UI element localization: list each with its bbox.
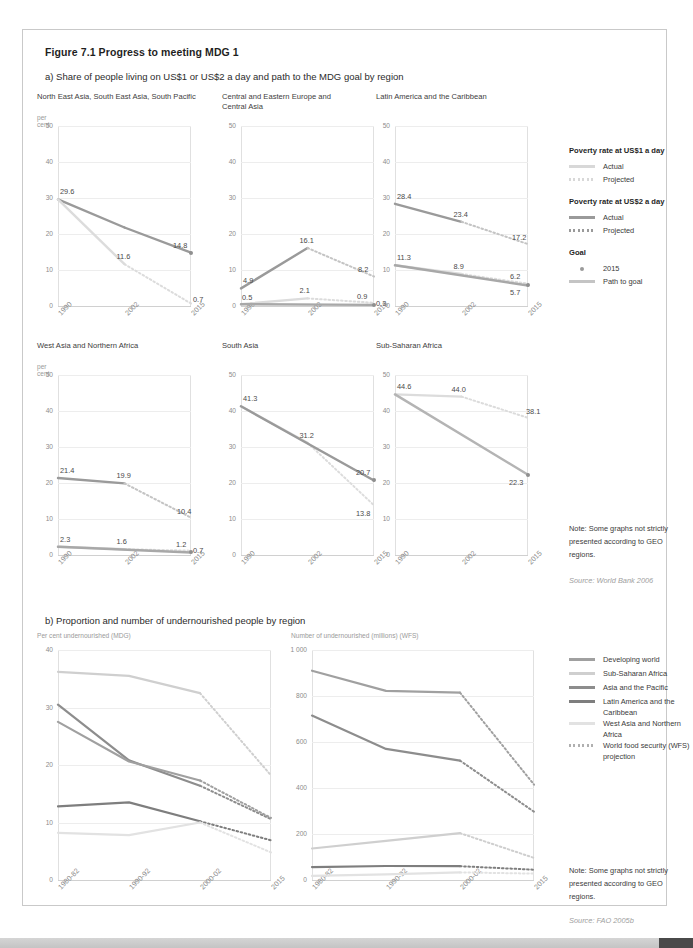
y-axis-tick: 600 — [285, 738, 307, 745]
data-label: 1.2 — [176, 540, 186, 549]
legend-dot-icon — [580, 267, 584, 271]
legend-item[interactable]: 2015 — [569, 262, 687, 275]
series-line — [460, 693, 534, 785]
x-axis-tick: 2015 — [526, 549, 544, 567]
gridline — [395, 555, 528, 556]
y-axis-tick: 200 — [285, 830, 307, 837]
y-axis-tick: 20 — [31, 479, 53, 486]
legend-dotted-line-icon — [569, 178, 595, 181]
data-label: 1.6 — [117, 537, 127, 546]
legend-solid-line-icon — [569, 686, 595, 689]
gridline — [395, 306, 528, 307]
data-label: 16.1 — [300, 236, 314, 245]
series-layer — [312, 650, 534, 880]
series-layer — [241, 126, 374, 306]
legend-item[interactable]: Sub-Saharan Africa — [569, 668, 691, 682]
legend-swatch — [569, 162, 595, 171]
plot-area: 0102030405019902002201521.42.319.91.610.… — [58, 375, 191, 555]
y-axis-tick: 50 — [368, 122, 390, 129]
data-label: 0.5 — [242, 293, 252, 302]
goal-marker-dot — [526, 283, 530, 287]
data-label: 0.7 — [193, 546, 203, 555]
legend-swatch — [569, 669, 595, 678]
legend-item-label: Projected — [603, 174, 634, 185]
legend-item[interactable]: Projected — [569, 173, 687, 186]
data-label: 21.4 — [60, 466, 74, 475]
gridline — [58, 306, 191, 307]
y-axis-tick: 0 — [31, 551, 53, 558]
series-line — [395, 204, 462, 222]
series-line — [460, 872, 534, 873]
legend-item-label: World food security (WFS) projection — [603, 740, 691, 762]
legend-item[interactable]: Actual — [569, 211, 687, 224]
data-label: 8.9 — [454, 262, 464, 271]
y-axis-tick: 0 — [31, 876, 53, 883]
series-line — [200, 786, 271, 819]
y-axis-tick: 30 — [31, 443, 53, 450]
legend-item[interactable]: West Asia and Northern Africa — [569, 718, 691, 740]
series-line — [58, 672, 200, 693]
y-axis-tick: 800 — [285, 692, 307, 699]
y-axis-tick: 10 — [31, 515, 53, 522]
series-line — [312, 716, 460, 761]
data-label: 2.1 — [300, 286, 310, 295]
series-line — [58, 199, 125, 264]
y-axis-tick: 30 — [214, 194, 236, 201]
y-axis-tick: 10 — [214, 266, 236, 273]
legend-group-heading: Goal — [569, 248, 687, 257]
data-label: 4.9 — [243, 276, 253, 285]
data-label: 14.8 — [173, 241, 187, 250]
legend-item[interactable]: Latin America and the Caribbean — [569, 696, 691, 718]
y-axis-tick: 20 — [214, 230, 236, 237]
series-line — [58, 802, 200, 821]
legend-solid-line-icon — [569, 722, 595, 725]
plot-area: 0102030401980-821990-922000-022015 — [58, 650, 271, 880]
y-axis-tick: 20 — [31, 230, 53, 237]
data-label: 22.3 — [509, 478, 523, 487]
y-axis-tick: 20 — [368, 479, 390, 486]
gridline — [58, 880, 271, 881]
plot-area: 0102030405019902002201529.611.614.80.7 — [58, 126, 191, 306]
legend-item[interactable]: Projected — [569, 224, 687, 237]
legend-item-label: Actual — [603, 212, 624, 223]
y-axis-tick: 30 — [31, 194, 53, 201]
panel-title: Central and Eastern Europe and Central A… — [222, 92, 392, 112]
y-axis-tick: 50 — [31, 122, 53, 129]
legend-item[interactable]: Path to goal — [569, 275, 687, 288]
legend-item-label: Projected — [603, 225, 634, 236]
legend-group: Poverty rate at US$1 a dayActualProjecte… — [569, 146, 687, 186]
data-label: 0.9 — [357, 292, 367, 301]
legend-item[interactable]: Developing world — [569, 654, 691, 668]
series-line — [125, 264, 192, 303]
legend-section-b: Developing worldSub-Saharan AfricaAsia a… — [569, 654, 691, 762]
legend-item[interactable]: Actual — [569, 160, 687, 173]
legend-section-a: Poverty rate at US$1 a dayActualProjecte… — [569, 146, 687, 299]
series-layer — [58, 650, 271, 880]
plot-area: 0102030405019902002201544.644.038.122.3 — [395, 375, 528, 555]
y-axis-tick: 20 — [214, 479, 236, 486]
legend-item[interactable]: World food security (WFS) projection — [569, 740, 691, 762]
series-layer — [395, 375, 528, 555]
series-line — [58, 199, 125, 227]
panel-title: South Asia — [222, 341, 392, 351]
legend-item-label: Actual — [603, 161, 624, 172]
series-line — [312, 872, 460, 876]
plot-area: 0102030405019902002201528.411.323.48.917… — [395, 126, 528, 306]
y-axis-tick: 0 — [31, 302, 53, 309]
gridline — [312, 880, 534, 881]
legend-swatch — [569, 719, 595, 728]
source-section-a: Source: World Bank 2006 — [569, 576, 653, 585]
axis-title: Number of undernourished (millions) (WFS… — [291, 632, 511, 639]
legend-item[interactable]: Asia and the Pacific — [569, 682, 691, 696]
series-layer — [241, 375, 374, 555]
legend-item-label: Asia and the Pacific — [603, 682, 668, 693]
legend-item-label: West Asia and Northern Africa — [603, 718, 691, 740]
data-label: 19.9 — [117, 471, 131, 480]
y-axis-tick: 30 — [214, 443, 236, 450]
y-axis-tick: 10 — [214, 515, 236, 522]
data-label: 20.7 — [356, 468, 370, 477]
series-line — [58, 478, 125, 483]
legend-solid-line-icon — [569, 672, 595, 675]
y-axis-tick: 20 — [368, 230, 390, 237]
series-layer — [58, 375, 191, 555]
